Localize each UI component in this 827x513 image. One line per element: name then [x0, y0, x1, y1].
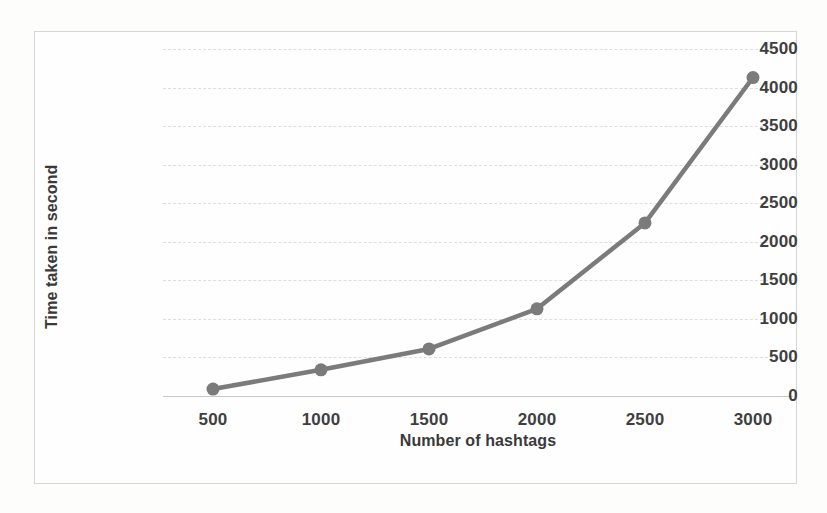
data-point-2500: [639, 216, 652, 229]
x-tick-label-500: 500: [168, 411, 258, 428]
x-tick-label-2500: 2500: [600, 411, 690, 428]
data-point-1500: [423, 342, 436, 355]
data-point-500: [207, 383, 220, 396]
x-tick-label-1000: 1000: [276, 411, 366, 428]
data-point-1000: [315, 363, 328, 376]
plot-area: 050010001500200025003000350040004500 500…: [35, 32, 798, 485]
x-axis-title: Number of hashtags: [163, 432, 793, 450]
series-markers: [207, 71, 760, 396]
x-tick-label-1500: 1500: [384, 411, 474, 428]
series-line: [213, 78, 753, 390]
data-point-3000: [747, 71, 760, 84]
x-tick-label-2000: 2000: [492, 411, 582, 428]
y-axis-title: Time taken in second: [43, 127, 67, 367]
x-tick-label-3000: 3000: [708, 411, 798, 428]
data-point-2000: [531, 302, 544, 315]
page-background: 050010001500200025003000350040004500 500…: [0, 0, 827, 513]
chart-frame: 050010001500200025003000350040004500 500…: [34, 31, 797, 484]
